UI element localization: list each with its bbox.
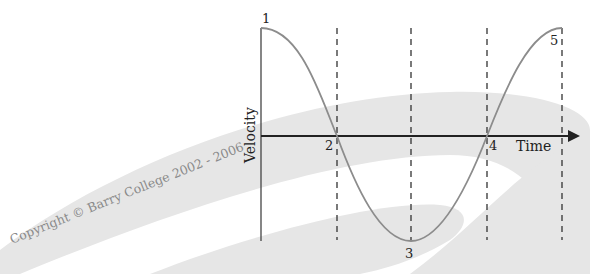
y-axis-label: Velocity bbox=[242, 107, 258, 164]
point-label-4: 4 bbox=[489, 138, 497, 153]
point-label-2: 2 bbox=[325, 138, 333, 153]
point-label-5: 5 bbox=[550, 33, 558, 48]
point-label-3: 3 bbox=[405, 246, 413, 261]
x-axis-label: Time bbox=[516, 138, 551, 154]
background-swoosh bbox=[0, 92, 590, 274]
velocity-time-diagram: Copyright © Barry College 2002 - 2006 1 … bbox=[0, 0, 590, 274]
point-label-1: 1 bbox=[262, 11, 270, 26]
